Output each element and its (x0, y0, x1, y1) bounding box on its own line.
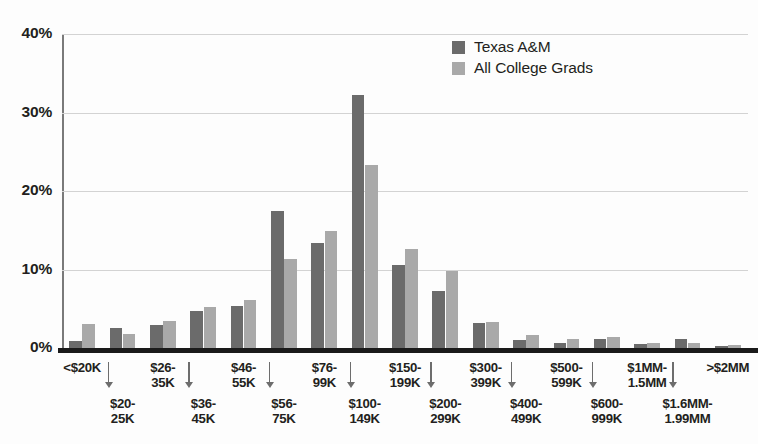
bar-texas-am (150, 325, 163, 348)
x-axis-tick-label-line: 499K (498, 411, 554, 426)
bar-series-container (62, 34, 748, 348)
bar-all-college-grads (365, 165, 378, 348)
x-axis-tick-label: $46-55K (216, 360, 272, 390)
x-axis-tick-label-line: 399K (458, 375, 514, 390)
bar-group (506, 34, 546, 348)
x-axis-tick-label: $56-75K (256, 396, 312, 426)
x-axis-tick-label-line: $20- (95, 396, 151, 411)
bar-texas-am (311, 243, 324, 348)
bar-group (223, 34, 263, 348)
legend-label-all-college-grads: All College Grads (474, 59, 593, 77)
x-axis-tick-label-line: $200- (417, 396, 473, 411)
bar-group (385, 34, 425, 348)
bar-all-college-grads (82, 324, 95, 348)
bar-group (466, 34, 506, 348)
bar-all-college-grads (244, 300, 257, 348)
chart-canvas: 0%10%20%30%40% Texas A&M All College Gra… (0, 0, 758, 444)
bar-group (264, 34, 304, 348)
x-axis-tick-label-line: $46- (216, 360, 272, 375)
bar-group (708, 34, 748, 348)
x-axis-tick-label-line: $1MM- (619, 360, 675, 375)
bar-group (143, 34, 183, 348)
x-axis-tick-label-line: 75K (256, 411, 312, 426)
x-axis-tick-label-line: 25K (95, 411, 151, 426)
x-axis-tick-label-line: 199K (377, 375, 433, 390)
bar-group (344, 34, 384, 348)
bar-all-college-grads (325, 231, 338, 348)
bar-texas-am (594, 339, 607, 348)
bar-all-college-grads (163, 321, 176, 348)
x-axis-tick-label-line: 299K (417, 411, 473, 426)
x-axis-tick-label: <$20K (54, 360, 110, 375)
x-axis-tick-label-line: $36- (175, 396, 231, 411)
bar-texas-am (432, 291, 445, 348)
bar-all-college-grads (567, 339, 580, 348)
x-axis-tick-label: $20-25K (95, 396, 151, 426)
legend-label-texas-am: Texas A&M (474, 38, 551, 56)
bar-group (183, 34, 223, 348)
bar-all-college-grads (526, 335, 539, 348)
x-axis-tick-label: $200-299K (417, 396, 473, 426)
bar-all-college-grads (204, 307, 217, 348)
x-axis-tick-label-line: $100- (337, 396, 393, 411)
x-axis-tick-label-line: $26- (135, 360, 191, 375)
x-axis-tick-label: $600-999K (579, 396, 635, 426)
legend-item-0: Texas A&M (452, 38, 593, 56)
x-axis-tick-label: $300-399K (458, 360, 514, 390)
x-axis-tick-label: $100-149K (337, 396, 393, 426)
x-axis-tick-label: $400-499K (498, 396, 554, 426)
y-axis-tick-label: 10% (0, 260, 52, 278)
bar-all-college-grads (607, 337, 620, 348)
x-axis-tick-label-line: 149K (337, 411, 393, 426)
x-axis-tick-label-line: 35K (135, 375, 191, 390)
x-axis-tick-label: $26-35K (135, 360, 191, 390)
plot-area (62, 34, 748, 348)
x-axis-tick-label-line: 1.5MM (619, 375, 675, 390)
x-axis-tick-label-line: 55K (216, 375, 272, 390)
legend-item-1: All College Grads (452, 59, 593, 77)
bar-texas-am (231, 306, 244, 348)
x-axis-tick-label-line: $150- (377, 360, 433, 375)
bar-all-college-grads (446, 271, 459, 348)
bar-group (667, 34, 707, 348)
x-axis-tick-label-line: $600- (579, 396, 635, 411)
bar-all-college-grads (284, 259, 297, 348)
bar-texas-am (69, 341, 82, 348)
x-axis-tick-label-line: $500- (538, 360, 594, 375)
x-axis-tick-label-line: 99K (296, 375, 352, 390)
x-axis-tick-label: $500-599K (538, 360, 594, 390)
x-axis-tick-label-line: $76- (296, 360, 352, 375)
bar-texas-am (190, 311, 203, 348)
x-axis-tick-label-line: $400- (498, 396, 554, 411)
bar-texas-am (271, 211, 284, 348)
x-axis-tick-label: $1MM-1.5MM (619, 360, 675, 390)
bar-all-college-grads (123, 334, 136, 348)
bar-group (627, 34, 667, 348)
x-axis-tick-label-line: 599K (538, 375, 594, 390)
x-axis-tick-label-line: >$2MM (700, 360, 756, 375)
x-axis-tick-label: $1.6MM-1.99MM (659, 396, 715, 426)
legend-swatch-texas-am (452, 41, 465, 54)
bar-texas-am (675, 339, 688, 348)
legend: Texas A&M All College Grads (452, 38, 593, 80)
y-axis-tick-label: 40% (0, 24, 52, 42)
x-axis-tick-label: $76-99K (296, 360, 352, 390)
bar-group (62, 34, 102, 348)
x-axis-tick-label: >$2MM (700, 360, 756, 375)
bar-texas-am (352, 95, 365, 348)
bar-texas-am (392, 265, 405, 348)
x-axis-tick-label: $150-199K (377, 360, 433, 390)
bar-group (304, 34, 344, 348)
x-axis-tick-label-line: <$20K (54, 360, 110, 375)
bar-all-college-grads (486, 322, 499, 348)
bar-group (587, 34, 627, 348)
bar-texas-am (513, 340, 526, 348)
bar-all-college-grads (405, 249, 418, 348)
x-axis-tick-label-line: $300- (458, 360, 514, 375)
x-axis-tick-label-line: 1.99MM (659, 411, 715, 426)
bar-group (102, 34, 142, 348)
y-axis-tick-label: 30% (0, 103, 52, 121)
y-axis-tick-label: 0% (0, 338, 52, 356)
bar-group (425, 34, 465, 348)
x-axis-tick-label-line: 999K (579, 411, 635, 426)
